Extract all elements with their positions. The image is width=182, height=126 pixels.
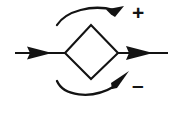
summing-junction-diagram: + –: [0, 0, 182, 126]
diagram-canvas: [0, 0, 182, 126]
positive-input-curved-arrow: [57, 6, 124, 25]
output-arrow: [118, 46, 168, 60]
negative-input-arrow-head: [111, 71, 129, 89]
plus-sign-label: +: [132, 2, 144, 23]
input-arrow: [15, 47, 65, 60]
minus-sign-label: –: [132, 74, 144, 95]
negative-input-curved-arrow: [57, 71, 129, 95]
positive-input-arc: [57, 8, 114, 25]
summing-junction-diamond: [65, 25, 118, 79]
output-arrow-head: [126, 46, 153, 60]
input-arrow-head: [27, 47, 52, 60]
negative-input-arc: [57, 81, 115, 95]
